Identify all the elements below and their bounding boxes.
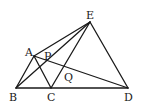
segment-AE <box>34 22 90 56</box>
segment-ED <box>90 22 128 88</box>
label-P: P <box>44 50 52 63</box>
label-B: B <box>9 91 17 104</box>
label-A: A <box>24 46 34 59</box>
label-Q: Q <box>64 71 73 84</box>
geometry-diagram: A B C D E P Q <box>0 0 145 110</box>
label-C: C <box>47 91 55 104</box>
label-D: D <box>124 91 133 104</box>
segment-AB <box>16 56 34 88</box>
label-E: E <box>86 9 94 22</box>
